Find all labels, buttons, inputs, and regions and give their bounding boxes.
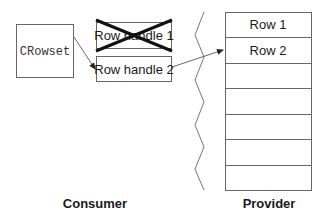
provider-rowset-table: Row 1 Row 2 xyxy=(225,13,312,191)
row-handle-2-label: Row handle 2 xyxy=(94,62,174,77)
row-handle-2: Row handle 2 xyxy=(94,57,174,82)
provider-row-1: Row 1 xyxy=(250,17,287,32)
diagram-svg: CRowset Row handle 1 Row handle 2 xyxy=(0,0,326,221)
consumer-label: Consumer xyxy=(63,196,127,211)
crowset-object: CRowset xyxy=(17,25,74,78)
provider-label: Provider xyxy=(243,196,296,211)
crowset-label: CRowset xyxy=(20,45,70,59)
arrow-handle-to-row xyxy=(172,50,223,67)
provider-row-2: Row 2 xyxy=(250,43,287,58)
rowset-diagram: CRowset Row handle 1 Row handle 2 xyxy=(0,0,326,221)
process-boundary-zigzag xyxy=(195,12,204,190)
row-handle-1: Row handle 1 xyxy=(94,20,174,51)
arrow-crowset-to-handle xyxy=(74,37,95,69)
